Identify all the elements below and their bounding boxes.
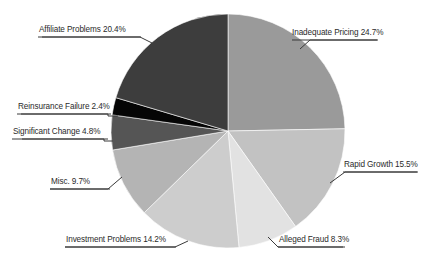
pie-label-reinsurance-failure: Reinsurance Failure 2.4%	[18, 102, 110, 112]
leader-line-affiliate-problems	[42, 37, 152, 43]
pie-chart-figure: Inadequate Pricing 24.7% Rapid Growth 15…	[0, 0, 431, 267]
leader-line-rapid-growth	[330, 172, 417, 183]
pie-label-affiliate-problems: Affiliate Problems 20.4%	[39, 25, 126, 35]
pie-label-rapid-growth: Rapid Growth 15.5%	[344, 160, 418, 170]
leader-line-inadequate-pricing	[300, 40, 377, 49]
pie-label-misc: Misc. 9.7%	[51, 177, 90, 187]
pie-slices-group	[111, 14, 345, 248]
pie-label-investment-problems: Investment Problems 14.2%	[66, 235, 166, 245]
pie-label-inadequate-pricing: Inadequate Pricing 24.7%	[292, 28, 383, 38]
pie-label-significant-change: Significant Change 4.8%	[13, 127, 100, 137]
pie-label-alleged-fraud: Alleged Fraud 8.3%	[279, 235, 349, 245]
